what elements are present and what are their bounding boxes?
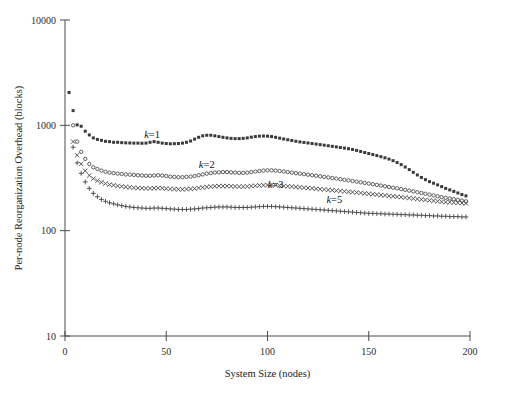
- data-point: [209, 171, 212, 174]
- data-point: [306, 173, 309, 176]
- data-point: [262, 135, 265, 138]
- data-point: [132, 185, 136, 189]
- data-point: [318, 187, 322, 191]
- data-point: [188, 187, 192, 191]
- data-point: [278, 169, 281, 172]
- data-point: [391, 186, 394, 189]
- data-point: [327, 176, 330, 179]
- data-point: [128, 173, 131, 176]
- data-point: [123, 204, 128, 209]
- data-point: [193, 174, 196, 177]
- x-axis-title: System Size (nodes): [225, 368, 311, 380]
- data-point: [165, 142, 168, 145]
- data-point: [298, 185, 302, 189]
- data-point: [262, 169, 265, 172]
- data-point: [209, 134, 212, 137]
- data-point: [91, 191, 96, 196]
- data-point: [104, 140, 107, 143]
- data-point: [444, 187, 447, 190]
- data-point: [323, 175, 326, 178]
- data-point: [205, 172, 208, 175]
- data-point: [75, 140, 78, 143]
- data-point: [355, 149, 358, 152]
- data-point: [169, 175, 172, 178]
- data-point: [119, 203, 124, 208]
- data-point: [464, 194, 467, 197]
- data-point: [156, 174, 159, 177]
- data-point: [161, 142, 164, 145]
- data-point: [88, 133, 91, 136]
- data-point: [395, 187, 398, 190]
- data-point: [193, 138, 196, 141]
- data-point: [424, 178, 427, 181]
- data-point: [124, 173, 127, 176]
- data-point: [448, 197, 451, 200]
- data-point: [436, 183, 439, 186]
- data-point: [399, 195, 403, 199]
- data-point: [327, 144, 330, 147]
- chart-container: 10100100010000050100150200System Size (n…: [0, 0, 507, 398]
- data-point: [298, 140, 301, 143]
- data-point: [71, 139, 75, 143]
- data-point: [168, 187, 172, 191]
- data-point: [225, 170, 228, 173]
- data-point: [278, 137, 281, 140]
- data-point: [355, 180, 358, 183]
- data-point: [184, 187, 188, 191]
- x-tick-label: 150: [361, 346, 376, 357]
- data-point: [452, 197, 455, 200]
- data-point: [294, 140, 297, 143]
- data-point: [363, 151, 366, 154]
- data-point: [103, 181, 107, 185]
- data-point: [189, 140, 192, 143]
- data-point: [415, 197, 419, 201]
- data-point: [221, 170, 224, 173]
- data-point: [379, 193, 383, 197]
- data-point: [192, 186, 196, 190]
- data-point: [375, 154, 378, 157]
- data-point: [460, 193, 463, 196]
- data-point: [148, 174, 151, 177]
- data-point: [217, 171, 220, 174]
- data-point: [100, 139, 103, 142]
- data-point: [83, 180, 88, 185]
- data-point: [432, 194, 435, 197]
- data-point: [408, 189, 411, 192]
- data-point: [290, 171, 293, 174]
- series-annotation: k=1: [144, 129, 160, 140]
- data-point: [136, 174, 139, 177]
- data-point: [112, 141, 115, 144]
- data-point: [436, 195, 439, 198]
- data-point: [404, 166, 407, 169]
- data-point: [346, 190, 350, 194]
- data-point: [132, 142, 135, 145]
- data-point: [294, 185, 298, 189]
- data-point: [363, 181, 366, 184]
- data-point: [331, 176, 334, 179]
- data-point: [84, 130, 87, 133]
- data-point: [306, 186, 310, 190]
- data-point: [120, 172, 123, 175]
- data-point: [375, 192, 379, 196]
- data-point: [367, 152, 370, 155]
- data-point: [116, 172, 119, 175]
- data-point: [237, 184, 241, 188]
- data-point: [258, 135, 261, 138]
- data-point: [185, 175, 188, 178]
- data-point: [330, 188, 334, 192]
- data-point: [127, 205, 132, 210]
- data-point: [165, 174, 168, 177]
- data-point: [266, 169, 269, 172]
- data-point: [241, 184, 245, 188]
- data-point: [160, 186, 164, 190]
- data-point: [396, 161, 399, 164]
- data-point: [282, 170, 285, 173]
- data-point: [80, 150, 83, 153]
- data-point: [395, 195, 399, 199]
- data-point: [286, 138, 289, 141]
- data-point: [124, 185, 128, 189]
- series-k-2: [71, 124, 467, 203]
- data-point: [363, 191, 367, 195]
- data-point: [323, 144, 326, 147]
- data-point: [172, 187, 176, 191]
